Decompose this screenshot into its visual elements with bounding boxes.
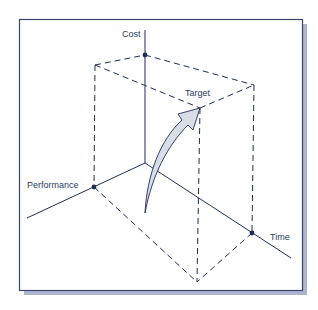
cost-point: [143, 53, 148, 58]
time-axis-label: Time: [270, 232, 290, 242]
cost-axis-label: Cost: [122, 29, 141, 39]
time-point: [250, 231, 255, 236]
cost-time-performance-diagram: Cost Target Performance Time: [0, 0, 318, 310]
target-label: Target: [185, 88, 211, 98]
performance-point: [92, 185, 97, 190]
performance-axis-label: Performance: [27, 180, 79, 190]
